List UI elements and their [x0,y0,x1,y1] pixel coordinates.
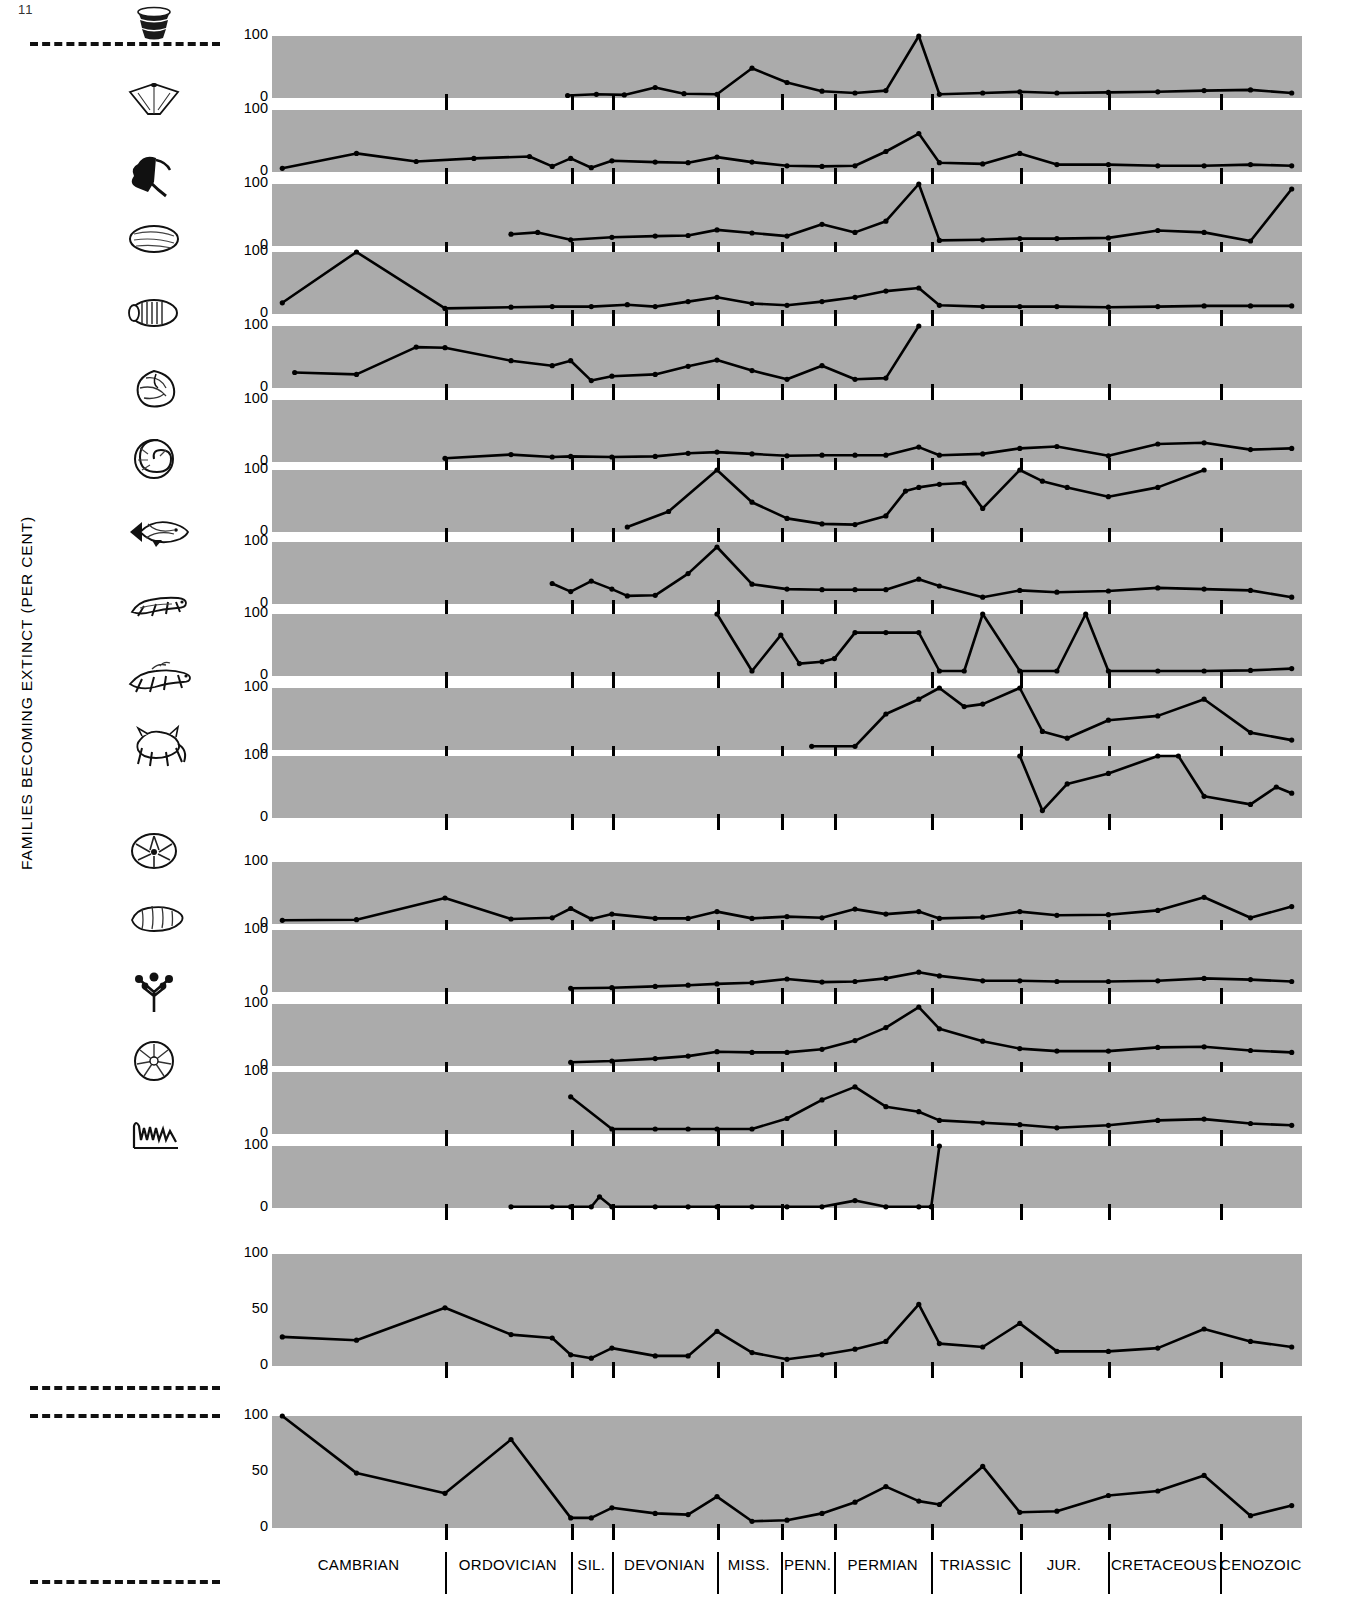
series-line [272,1072,1302,1134]
foraminifera-icon [90,898,230,944]
period-tick [612,1130,615,1146]
period-tick [834,168,837,184]
period-tick [571,1362,574,1378]
y-tick-100: 100 [226,678,268,694]
period-tick [612,814,615,830]
period-tick [931,1362,934,1378]
period-tick [834,1524,837,1540]
period-tick [571,384,574,400]
period-tick [1020,814,1023,830]
period-tick [1220,1204,1223,1220]
reptile-icon [90,656,230,702]
period-tick [445,310,448,326]
series-line [272,862,1302,924]
period-tick [1020,1204,1023,1220]
period-tick [445,1130,448,1146]
period-tick [571,1204,574,1220]
period-tick [717,384,720,400]
period-tick [931,988,934,1004]
period-label-cenozoic: CENOZOIC [1181,1556,1341,1573]
period-tick [571,1524,574,1540]
period-divider [717,1552,719,1594]
bryozoan-icon [90,972,230,1018]
period-tick [612,310,615,326]
period-tick [1220,1362,1223,1378]
period-tick [571,168,574,184]
period-tick [612,384,615,400]
period-tick [931,94,934,110]
period-tick [781,1524,784,1540]
period-tick [1108,94,1111,110]
period-tick [781,1204,784,1220]
period-tick [1220,168,1223,184]
period-tick [834,988,837,1004]
period-tick [931,814,934,830]
period-tick [717,672,720,688]
y-tick-100: 100 [226,174,268,190]
period-tick [1020,94,1023,110]
period-tick [1020,384,1023,400]
period-tick [1220,1130,1223,1146]
y-tick-100: 100 [226,390,268,406]
series-line [272,1004,1302,1066]
ammonoid-icon [90,438,230,484]
y-tick-0: 0 [226,1198,268,1214]
period-tick [717,168,720,184]
period-tick [1020,310,1023,326]
series-line [272,1254,1302,1366]
period-tick [612,988,615,1004]
y-tick-100: 100 [226,1406,268,1422]
trilobite-icon [90,294,230,340]
period-axis: CAMBRIANORDOVICIANSIL.DEVONIANMISS.PENN.… [272,1556,1302,1596]
period-tick [612,1362,615,1378]
lower-dashed-rule [30,1414,220,1418]
series-line [272,326,1302,388]
conodont-icon [90,1114,230,1160]
period-tick [717,1524,720,1540]
period-tick [612,94,615,110]
top-dashed-rule [30,42,220,46]
y-tick-100: 100 [226,1062,268,1078]
period-tick [571,94,574,110]
period-tick [1220,1524,1223,1540]
y-tick-100: 100 [226,604,268,620]
period-tick [717,1362,720,1378]
period-tick [1108,1524,1111,1540]
mammal-icon [90,724,230,770]
period-tick [781,1130,784,1146]
period-divider [1220,1552,1222,1594]
period-label-cambrian: CAMBRIAN [279,1556,439,1573]
period-tick [571,814,574,830]
period-divider [834,1552,836,1594]
period-tick [1020,1130,1023,1146]
period-tick [445,168,448,184]
period-divider [612,1552,614,1594]
y-tick-100: 100 [226,26,268,42]
y-tick-0: 0 [226,1518,268,1534]
period-tick [931,672,934,688]
echinoid-icon [90,1040,230,1086]
y-tick-100: 100 [226,1244,268,1260]
period-tick [1108,384,1111,400]
period-tick [834,814,837,830]
period-tick [717,310,720,326]
series-line [272,930,1302,992]
period-tick [781,384,784,400]
series-line [272,184,1302,246]
period-tick [834,1130,837,1146]
period-tick [1220,94,1223,110]
period-tick [781,94,784,110]
period-tick [1108,1204,1111,1220]
period-tick [781,988,784,1004]
period-tick [1220,384,1223,400]
period-divider [1020,1552,1022,1594]
period-tick [1108,988,1111,1004]
period-tick [1220,672,1223,688]
series-line [272,400,1302,462]
series-line [272,36,1302,98]
period-tick [931,384,934,400]
series-line [272,1416,1302,1528]
period-tick [1108,672,1111,688]
period-tick [1108,1362,1111,1378]
y-axis-title: FAMILIES BECOMING EXTINCT (PER CENT) [18,483,36,903]
